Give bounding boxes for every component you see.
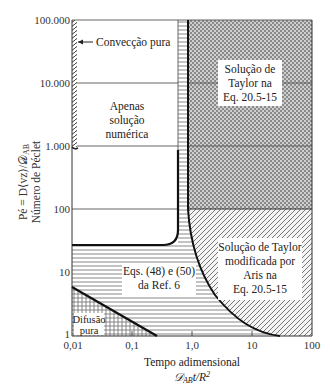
y-axis-label: Pé = D⟨vz⟩/𝒟AB Número de Péclet	[17, 140, 42, 223]
svg-text:1.000: 1.000	[45, 140, 70, 152]
label-aris-1: Solução de Taylor	[218, 241, 301, 254]
label-taylor-1: Solução de	[225, 63, 276, 76]
label-eqs-1: Eqs. (48) e (50)	[123, 265, 195, 278]
label-aris-3: Aris na	[243, 269, 277, 281]
svg-text:10.000: 10.000	[40, 77, 71, 89]
label-numerical-1: Apenas	[110, 100, 145, 113]
x-axis-label: Tempo adimensional	[144, 356, 240, 369]
svg-text:100: 100	[304, 339, 321, 351]
label-taylor-3: Eq. 20.5-15	[223, 91, 277, 104]
label-eqs-2: da Ref. 6	[138, 279, 180, 291]
label-numerical-2: solução	[109, 114, 144, 127]
label-aris-4: Eq. 20.5-15	[233, 283, 287, 296]
region-taylor	[188, 20, 312, 209]
regime-diagram: Convecção pura Apenas solução numérica S…	[0, 0, 330, 388]
x-axis-ticks: 0,01 0,1 1,0 10 100	[63, 339, 320, 351]
svg-text:100.000: 100.000	[34, 14, 70, 26]
label-diffusion-2: pura	[80, 325, 99, 336]
svg-text:0,1: 0,1	[125, 339, 139, 351]
label-convection: Convecção pura	[96, 36, 170, 49]
svg-text:Número de Péclet: Número de Péclet	[30, 140, 42, 223]
svg-text:Pé = D⟨vz⟩/𝒟AB: Pé = D⟨vz⟩/𝒟AB	[17, 144, 31, 220]
svg-text:100: 100	[54, 203, 71, 215]
label-taylor-2: Taylor na	[228, 77, 272, 90]
svg-text:1,0: 1,0	[185, 339, 199, 351]
label-diffusion-1: Difusão	[72, 314, 105, 325]
region-convection	[72, 20, 77, 147]
svg-text:10: 10	[247, 339, 259, 351]
svg-text:10: 10	[59, 266, 71, 278]
label-numerical-3: numérica	[106, 128, 149, 140]
x-axis-formula: 𝒟ABt/R2	[174, 370, 210, 385]
label-aris-2: modificada por	[225, 255, 295, 268]
svg-text:0,01: 0,01	[63, 339, 82, 351]
